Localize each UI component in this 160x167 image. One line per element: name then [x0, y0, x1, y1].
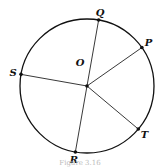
- point-p: [140, 46, 144, 50]
- point-q: [97, 18, 101, 22]
- point-o: [85, 84, 89, 88]
- segment-so: [21, 74, 87, 86]
- point-s: [19, 73, 23, 77]
- segment-op: [87, 48, 142, 86]
- point-t: [137, 127, 141, 131]
- figure-caption: Figure 3.16: [59, 159, 101, 167]
- point-r: [74, 150, 78, 154]
- point-label-t: T: [141, 129, 150, 140]
- center-label: O: [76, 57, 85, 68]
- point-label-s: S: [10, 67, 17, 78]
- point-label-p: P: [144, 37, 153, 48]
- circle-diagram: QPSRT O Figure 3.16: [0, 0, 160, 167]
- point-label-q: Q: [96, 7, 105, 18]
- segment-ot: [87, 86, 138, 129]
